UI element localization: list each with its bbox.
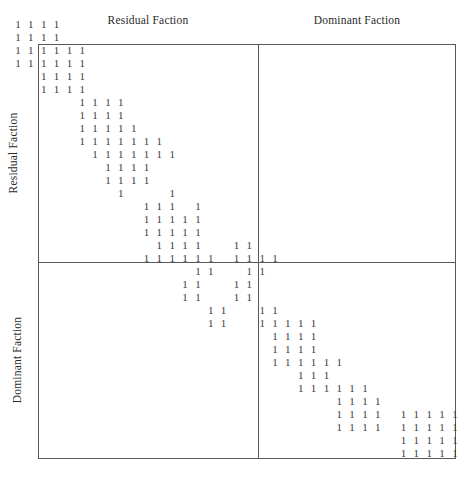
- matrix-cell: 1: [219, 317, 229, 329]
- matrix-figure: Residual Faction Dominant Faction Residu…: [0, 0, 469, 478]
- matrix-cell: 1: [116, 161, 126, 173]
- matrix-cell: 1: [129, 161, 139, 173]
- matrix-cell: 1: [244, 265, 254, 277]
- matrix-cell: 1: [244, 252, 254, 264]
- matrix-cell: 1: [373, 395, 383, 407]
- matrix-cell: 1: [206, 252, 216, 264]
- matrix-cell: 1: [154, 200, 164, 212]
- matrix-cell: 1: [399, 421, 409, 433]
- matrix-cell: 1: [347, 408, 357, 420]
- matrix-cell: 1: [283, 317, 293, 329]
- matrix-cell: 1: [142, 226, 152, 238]
- matrix-cell: 1: [193, 265, 203, 277]
- matrix-cell: 1: [103, 135, 113, 147]
- matrix-cell: 1: [270, 330, 280, 342]
- matrix-cell: 1: [360, 408, 370, 420]
- matrix-cell: 1: [334, 408, 344, 420]
- matrix-cell: 1: [244, 239, 254, 251]
- matrix-cell: 1: [450, 421, 460, 433]
- matrix-cell: 1: [142, 161, 152, 173]
- matrix-cell: 1: [116, 187, 126, 199]
- matrix-cell: 1: [52, 31, 62, 43]
- matrix-cell: 1: [309, 382, 319, 394]
- matrix-cell: 1: [334, 421, 344, 433]
- left-axis-label-dominant-faction: Dominant Faction: [10, 300, 24, 420]
- matrix-cell: 1: [26, 44, 36, 56]
- matrix-cell: 1: [437, 447, 447, 459]
- matrix-cell: 1: [399, 434, 409, 446]
- matrix-cell: 1: [424, 447, 434, 459]
- matrix-cell: 1: [411, 447, 421, 459]
- matrix-cell: 1: [321, 382, 331, 394]
- matrix-cell: 1: [154, 226, 164, 238]
- matrix-cell: 1: [450, 408, 460, 420]
- matrix-cell: 1: [39, 70, 49, 82]
- matrix-cell: 1: [103, 96, 113, 108]
- matrix-cell: 1: [399, 408, 409, 420]
- matrix-cell: 1: [116, 109, 126, 121]
- matrix-cell: 1: [296, 317, 306, 329]
- matrix-cell: 1: [39, 31, 49, 43]
- matrix-cell: 1: [270, 356, 280, 368]
- matrix-cell: 1: [167, 213, 177, 225]
- top-axis-label-residual-faction: Residual Faction: [38, 14, 258, 26]
- matrix-cell: 1: [13, 31, 23, 43]
- matrix-cell: 1: [231, 291, 241, 303]
- matrix-cell: 1: [270, 304, 280, 316]
- matrix-cell: 1: [257, 265, 267, 277]
- matrix-cell: 1: [39, 44, 49, 56]
- matrix-cell: 1: [154, 135, 164, 147]
- matrix-cell: 1: [103, 148, 113, 160]
- matrix-cell: 1: [167, 239, 177, 251]
- matrix-cell: 1: [52, 18, 62, 30]
- matrix-cell: 1: [231, 278, 241, 290]
- matrix-cell: 1: [193, 239, 203, 251]
- left-axis-label-residual-faction: Residual Faction: [6, 93, 20, 213]
- matrix-cell: 1: [309, 317, 319, 329]
- matrix-cell: 1: [437, 434, 447, 446]
- matrix-cell: 1: [180, 278, 190, 290]
- matrix-cell: 1: [360, 382, 370, 394]
- matrix-cell: 1: [77, 57, 87, 69]
- matrix-cell: 1: [129, 148, 139, 160]
- matrix-cell: 1: [180, 213, 190, 225]
- matrix-cell: 1: [180, 239, 190, 251]
- matrix-cell: 1: [360, 421, 370, 433]
- matrix-cell: 1: [193, 213, 203, 225]
- matrix-cell: 1: [193, 226, 203, 238]
- matrix-cell: 1: [283, 343, 293, 355]
- matrix-cell: 1: [52, 70, 62, 82]
- matrix-cell: 1: [347, 395, 357, 407]
- matrix-cell: 1: [219, 304, 229, 316]
- matrix-cell: 1: [142, 252, 152, 264]
- matrix-cell: 1: [13, 44, 23, 56]
- matrix-cell: 1: [296, 369, 306, 381]
- matrix-cell: 1: [437, 421, 447, 433]
- matrix-cell: 1: [39, 18, 49, 30]
- matrix-cell: 1: [154, 148, 164, 160]
- matrix-cell: 1: [90, 122, 100, 134]
- matrix-cell: 1: [283, 330, 293, 342]
- matrix-cell: 1: [142, 200, 152, 212]
- matrix-cell: 1: [347, 382, 357, 394]
- matrix-cell: 1: [52, 57, 62, 69]
- matrix-cell: 1: [64, 83, 74, 95]
- matrix-cell: 1: [77, 83, 87, 95]
- matrix-cell: 1: [167, 252, 177, 264]
- matrix-cell: 1: [309, 356, 319, 368]
- matrix-cell: 1: [26, 31, 36, 43]
- matrix-cell: 1: [129, 135, 139, 147]
- matrix-cell: 1: [309, 369, 319, 381]
- matrix-cell: 1: [142, 213, 152, 225]
- matrix-cell: 1: [116, 174, 126, 186]
- matrix-cell: 1: [424, 408, 434, 420]
- matrix-cell: 1: [13, 57, 23, 69]
- matrix-cell: 1: [193, 200, 203, 212]
- matrix-cell: 1: [206, 304, 216, 316]
- matrix-cell: 1: [77, 135, 87, 147]
- matrix-cell: 1: [142, 174, 152, 186]
- matrix-cell: 1: [257, 252, 267, 264]
- matrix-cell: 1: [257, 304, 267, 316]
- matrix-cell: 1: [424, 434, 434, 446]
- matrix-cell: 1: [52, 44, 62, 56]
